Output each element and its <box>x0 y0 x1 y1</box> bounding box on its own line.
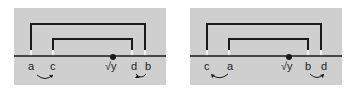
label-d: d <box>321 60 327 72</box>
label-b: b <box>305 60 311 72</box>
bracket-diagram-right: c a √y b d <box>190 8 342 85</box>
bracket-diagram-left: a c √y d b <box>14 8 166 85</box>
diagram-panel-left: a c √y d b <box>14 8 166 85</box>
label-a: a <box>28 60 35 72</box>
label-sqrt-y: √y <box>105 60 117 72</box>
label-sqrt-y: √y <box>281 60 293 72</box>
label-c: c <box>204 60 210 72</box>
diagram-panel-right: c a √y b d <box>190 8 342 85</box>
label-a: a <box>227 60 234 72</box>
label-c: c <box>50 60 56 72</box>
label-b: b <box>145 60 151 72</box>
label-d: d <box>131 60 137 72</box>
